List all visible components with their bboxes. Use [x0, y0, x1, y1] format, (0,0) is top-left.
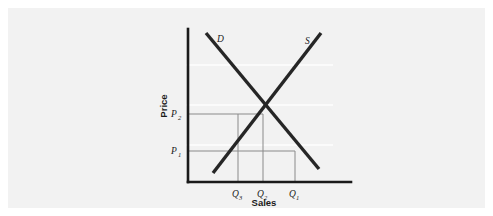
grid-lines: [186, 65, 333, 145]
y-axis-title: Price: [158, 94, 169, 117]
x-tick-q3-base: Q: [232, 189, 239, 199]
y-tick-labels: P 2 P 1: [170, 109, 182, 158]
x-tick-q1-sub: 1: [296, 194, 299, 201]
x-tick-q3-sub: 3: [238, 194, 243, 201]
x-axis-title: Sales: [252, 197, 277, 208]
demand-curve-label: D: [216, 34, 224, 44]
y-tick-p1-sub: 1: [178, 151, 181, 158]
y-tick-p2-sub: 2: [178, 114, 182, 121]
supply-demand-chart: D S P 2 P 1 Q 3 Q 2 Q 1 Price Sales: [8, 8, 485, 208]
x-tick-q1-base: Q: [289, 189, 296, 199]
reference-lines: [188, 114, 295, 181]
supply-curve-label: S: [305, 36, 310, 46]
y-tick-p1-base: P: [170, 146, 177, 156]
y-tick-p2-base: P: [170, 109, 177, 119]
figure-panel: D S P 2 P 1 Q 3 Q 2 Q 1 Price Sales: [8, 8, 485, 208]
